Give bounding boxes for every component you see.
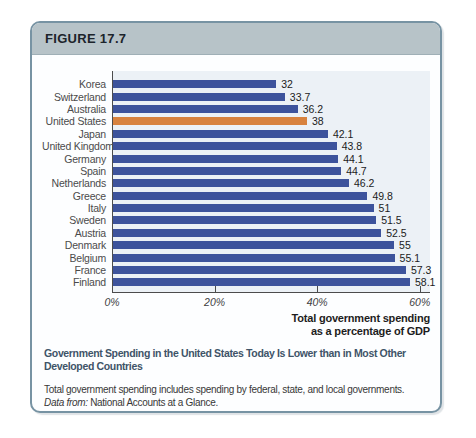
bar-cell: 55 (112, 239, 430, 251)
country-label: Austria (42, 227, 112, 239)
bar-rows: Korea32Switzerland33.7Australia36.2Unite… (42, 71, 430, 293)
country-label: Switzerland (42, 91, 112, 103)
bar-cell: 57.3 (112, 264, 430, 276)
value-label: 46.2 (354, 177, 374, 189)
bar-cell: 38 (112, 115, 430, 127)
value-label: 57.3 (411, 264, 431, 276)
x-axis-line (112, 292, 430, 293)
bar-cell: 42.1 (112, 128, 430, 140)
bar (112, 192, 367, 200)
bar-row: Greece49.8 (42, 190, 430, 202)
country-label: Germany (42, 153, 112, 165)
country-label: Australia (42, 103, 112, 115)
bar-row: Sweden51.5 (42, 214, 430, 226)
bar-cell: 43.8 (112, 140, 430, 152)
country-label: Korea (42, 78, 112, 90)
bar-chart: Korea32Switzerland33.7Australia36.2Unite… (42, 71, 430, 338)
y-axis-line (112, 71, 113, 293)
bar-cell: 46.2 (112, 177, 430, 189)
bar-row: Italy51 (42, 202, 430, 214)
value-label: 36.2 (303, 103, 323, 115)
value-label: 38 (312, 115, 324, 127)
value-label: 49.8 (372, 190, 392, 202)
country-label: Netherlands (42, 177, 112, 189)
bar-cell: 36.2 (112, 103, 430, 115)
bar-row: United States38 (42, 115, 430, 127)
value-label: 51.5 (381, 214, 401, 226)
bar-highlighted (112, 117, 307, 125)
bar (112, 278, 410, 286)
country-label: France (42, 264, 112, 276)
caption-title: Government Spending in the United States… (44, 347, 434, 373)
country-label: Spain (42, 165, 112, 177)
value-label: 52.5 (386, 227, 406, 239)
country-label: Sweden (42, 214, 112, 226)
source-line: Data from: National Accounts at a Glance… (44, 396, 436, 409)
figure-panel: FIGURE 17.7 Korea32Switzerland33.7Austra… (30, 21, 442, 413)
bar-cell: 49.8 (112, 190, 430, 202)
value-label: 44.7 (346, 165, 366, 177)
bar-row: France57.3 (42, 264, 430, 276)
bar (112, 130, 328, 138)
tick-label: 40% (307, 296, 328, 308)
bar (112, 93, 285, 101)
note-text: Total government spending includes spend… (44, 383, 436, 396)
country-label: United States (42, 115, 112, 127)
x-axis-label-line2: as a percentage of GDP (112, 325, 430, 338)
bar (112, 241, 394, 249)
bar (112, 179, 349, 187)
country-label: Finland (42, 276, 112, 288)
value-label: 55.1 (400, 252, 420, 264)
country-label: United Kingdom (42, 140, 112, 152)
source-text: National Accounts at a Glance. (90, 397, 218, 408)
bar-cell: 58.1 (112, 276, 430, 288)
tick-label: 0% (104, 296, 119, 308)
value-label: 43.8 (342, 140, 362, 152)
bar-cell: 51 (112, 202, 430, 214)
tick-label: 60% (409, 296, 430, 308)
bar-row: Belgium55.1 (42, 251, 430, 263)
value-label: 32 (281, 78, 293, 90)
figure-number-label: FIGURE 17.7 (45, 31, 126, 46)
plot-region: Korea32Switzerland33.7Australia36.2Unite… (42, 71, 430, 293)
bar-row: Japan42.1 (42, 128, 430, 140)
bar (112, 216, 376, 224)
bar (112, 229, 381, 237)
bar-cell: 44.7 (112, 165, 430, 177)
country-label: Japan (42, 128, 112, 140)
bar (112, 142, 337, 150)
bar-row: Netherlands46.2 (42, 177, 430, 189)
value-label: 44.1 (343, 153, 363, 165)
bar-cell: 44.1 (112, 152, 430, 164)
bar-row: Australia36.2 (42, 103, 430, 115)
country-label: Denmark (42, 239, 112, 251)
bar-row: Germany44.1 (42, 152, 430, 164)
figure-header: FIGURE 17.7 (32, 23, 440, 55)
bar-row: Korea32 (42, 78, 430, 90)
bar-row: United Kingdom43.8 (42, 140, 430, 152)
bar-cell: 33.7 (112, 90, 430, 102)
bar (112, 155, 338, 163)
bar-row: Switzerland33.7 (42, 90, 430, 102)
value-label: 51 (379, 202, 391, 214)
bar (112, 167, 341, 175)
bar-cell: 52.5 (112, 227, 430, 239)
bar-cell: 51.5 (112, 214, 430, 226)
x-axis-label: Total government spending as a percentag… (112, 312, 430, 338)
bar-row: Finland58.1 (42, 276, 430, 288)
value-label: 55 (399, 239, 411, 251)
source-label: Data from: (44, 397, 88, 408)
bar (112, 105, 298, 113)
bar-row: Austria52.5 (42, 227, 430, 239)
country-label: Greece (42, 190, 112, 202)
value-label: 42.1 (333, 128, 353, 140)
country-label: Italy (42, 202, 112, 214)
bar-cell: 55.1 (112, 251, 430, 263)
bar (112, 254, 395, 262)
bar-row: Denmark55 (42, 239, 430, 251)
value-label: 58.1 (415, 276, 435, 288)
bar (112, 80, 276, 88)
value-label: 33.7 (290, 91, 310, 103)
x-tick-labels: 0%20%40%60% (112, 296, 430, 310)
tick-label: 20% (204, 296, 225, 308)
